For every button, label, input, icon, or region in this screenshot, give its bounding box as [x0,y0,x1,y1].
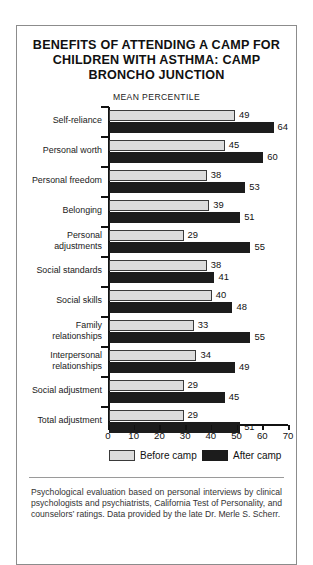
category-label: Social skills [0,295,102,306]
bar-before [109,380,184,391]
title-line-1: BENEFITS OF ATTENDING A CAMP FOR [29,38,284,53]
category-label: Personaladjustments [0,230,102,251]
bar-after [109,392,225,403]
bar-after [109,152,263,163]
category-label: Social adjustment [0,385,102,396]
category-label-line: Social adjustment [0,385,102,396]
bar-before [109,260,207,271]
bar-group: Familyrelationships3355 [17,317,296,347]
chart-figure: BENEFITS OF ATTENDING A CAMP FOR CHILDRE… [16,25,297,565]
bar-group: Social adjustment2945 [17,377,296,407]
category-label: Belonging [0,205,102,216]
bar-groups: Self-reliance4964Personal worth4560Perso… [17,107,296,437]
bar-value-label: 34 [200,349,210,360]
group-tick [101,106,109,108]
category-label-line: Family [0,320,102,331]
group-tick [101,346,109,348]
bar-group: Social skills4048 [17,287,296,317]
bar-value-label: 49 [239,361,249,372]
x-tick-label: 60 [257,430,268,441]
group-tick [101,286,109,288]
group-tick [101,166,109,168]
category-label: Personal worth [0,145,102,156]
bar-before [109,140,225,151]
bar-value-label: 64 [278,121,288,132]
bar-value-label: 39 [213,199,223,210]
bar-value-label: 38 [211,169,221,180]
x-tick-label: 10 [128,430,139,441]
bar-after [109,302,232,313]
group-tick [101,406,109,408]
bar-group: Personaladjustments2955 [17,227,296,257]
x-tick-label: 30 [180,430,191,441]
chart-subtitle: MEAN PERCENTILE [17,92,296,102]
bar-group: Personal worth4560 [17,137,296,167]
bar-value-label: 45 [229,139,239,150]
bar-value-label: 48 [236,301,246,312]
bar-after [109,362,235,373]
category-label: Social standards [0,265,102,276]
group-tick [101,376,109,378]
category-label-line: Self-reliance [0,115,102,126]
bar-value-label: 38 [211,259,221,270]
bar-after [109,122,274,133]
category-label-line: Social standards [0,265,102,276]
bar-before [109,410,184,421]
group-tick [101,316,109,318]
bar-value-label: 53 [249,181,259,192]
title-line-2: CHILDREN WITH ASTHMA: CAMP [29,53,284,68]
group-tick [101,256,109,258]
bar-after [109,242,250,253]
category-label-line: Social skills [0,295,102,306]
bar-before [109,200,209,211]
bar-after [109,212,240,223]
category-label-line: Belonging [0,205,102,216]
x-tick-label: 40 [206,430,217,441]
bar-group: Personal freedom3853 [17,167,296,197]
bar-before [109,290,212,301]
bar-value-label: 60 [267,151,277,162]
plot-area: Self-reliance4964Personal worth4560Perso… [17,107,296,437]
group-tick [101,136,109,138]
category-label-line: Personal freedom [0,175,102,186]
category-label-line: relationships [0,361,102,372]
bar-value-label: 33 [198,319,208,330]
x-tick-label: 0 [105,430,110,441]
bar-group: Belonging3951 [17,197,296,227]
legend-item-before-camp: Before camp [109,450,197,461]
category-label-line: Personal worth [0,145,102,156]
legend-swatch-before-camp [109,450,135,461]
category-label-line: Total adjustment [0,415,102,426]
bar-before [109,170,207,181]
legend-item-after-camp: After camp [202,450,281,461]
bar-group: Social standards3841 [17,257,296,287]
x-tick-label: 20 [154,430,165,441]
bar-value-label: 55 [254,331,264,342]
category-label-line: Personal [0,230,102,241]
category-label: Personal freedom [0,175,102,186]
footnote-text: Psychological evaluation based on person… [31,487,282,521]
bar-value-label: 29 [188,229,198,240]
group-tick [101,196,109,198]
bar-group: Self-reliance4964 [17,107,296,137]
bar-after [109,272,214,283]
footnote-divider [29,477,284,478]
bar-value-label: 29 [188,409,198,420]
legend-swatch-after-camp [202,450,228,461]
bar-after [109,332,250,343]
bar-after [109,182,245,193]
bar-value-label: 29 [188,379,198,390]
legend-label-after-camp: After camp [233,450,281,461]
bar-before [109,320,194,331]
category-label-line: Interpersonal [0,350,102,361]
x-axis-ticks: 010203040506070 [108,425,288,441]
category-label-line: relationships [0,331,102,342]
bar-group: Interpersonalrelationships3449 [17,347,296,377]
chart-title: BENEFITS OF ATTENDING A CAMP FOR CHILDRE… [29,38,284,83]
bar-value-label: 40 [216,289,226,300]
chart-legend: Before camp After camp [17,450,296,464]
x-tick-label: 70 [283,430,294,441]
category-label: Total adjustment [0,415,102,426]
bar-before [109,230,184,241]
category-label: Interpersonalrelationships [0,350,102,371]
